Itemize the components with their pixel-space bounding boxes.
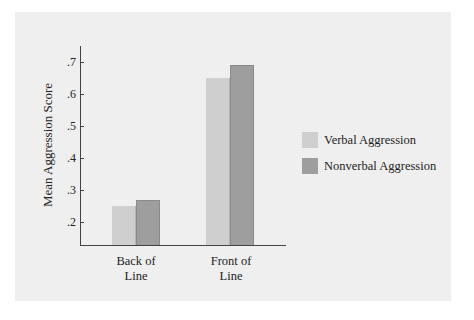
bar-nonverbal-front-of-line — [230, 65, 254, 245]
y-tick-label: .3 — [46, 184, 76, 196]
category-label-line2: Line — [191, 269, 271, 284]
y-tick — [80, 94, 84, 95]
y-tick-label: .6 — [46, 88, 76, 100]
y-tick — [80, 158, 84, 159]
legend-item-verbal: Verbal Aggression — [302, 132, 416, 148]
y-tick — [80, 222, 84, 223]
bar-verbal-back-of-line — [112, 206, 136, 245]
y-tick-label: .7 — [46, 56, 76, 68]
category-label-line1: Back of — [96, 254, 176, 269]
bar-verbal-front-of-line — [206, 78, 230, 245]
y-tick — [80, 62, 84, 63]
legend-label-verbal: Verbal Aggression — [324, 133, 416, 148]
y-axis — [80, 46, 81, 245]
category-label-back-of-line: Back of Line — [96, 254, 176, 284]
category-label-line1: Front of — [191, 254, 271, 269]
bar-nonverbal-back-of-line — [136, 200, 160, 245]
y-tick — [80, 190, 84, 191]
category-label-front-of-line: Front of Line — [191, 254, 271, 284]
legend-item-nonverbal: Nonverbal Aggression — [302, 158, 436, 174]
legend-label-nonverbal: Nonverbal Aggression — [324, 159, 436, 174]
x-axis — [80, 245, 286, 246]
y-tick-label: .4 — [46, 152, 76, 164]
y-tick-label: .2 — [46, 216, 76, 228]
legend-swatch-verbal — [302, 132, 318, 148]
category-label-line2: Line — [96, 269, 176, 284]
y-tick — [80, 126, 84, 127]
legend-swatch-nonverbal — [302, 158, 318, 174]
y-tick-label: .5 — [46, 120, 76, 132]
